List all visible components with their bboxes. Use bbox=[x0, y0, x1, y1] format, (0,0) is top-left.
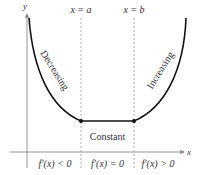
point-b bbox=[132, 119, 136, 123]
y-axis-label: y bbox=[22, 1, 27, 11]
label-x-equals-a: x = a bbox=[69, 4, 91, 15]
region-label-positive: f′(x) > 0 bbox=[142, 158, 175, 170]
decreasing-label: Decreasing bbox=[38, 48, 71, 92]
region-label-negative: f′(x) < 0 bbox=[39, 158, 72, 170]
constant-label: Constant bbox=[90, 131, 126, 142]
label-x-equals-b: x = b bbox=[122, 4, 144, 15]
point-a bbox=[79, 119, 83, 123]
x-axis-label: x bbox=[186, 147, 191, 157]
derivative-sign-diagram: x y x = a x = b Decreasing Constant Incr… bbox=[0, 0, 203, 175]
region-label-zero: f′(x) = 0 bbox=[91, 158, 124, 170]
